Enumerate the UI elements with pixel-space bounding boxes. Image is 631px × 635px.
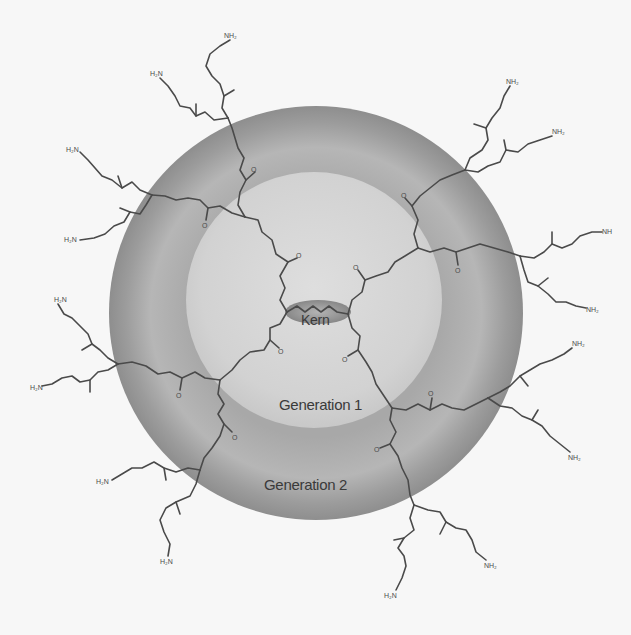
svg-text:O: O — [232, 434, 238, 441]
dendrimer-diagram: NH₂ H₂N H₂N H₂N H₂N H₂N H₂N H₂N NH₂ NH₂ … — [0, 0, 631, 635]
svg-text:H₂N: H₂N — [30, 384, 43, 391]
svg-text:H₂N: H₂N — [54, 296, 67, 303]
svg-text:NH₂: NH₂ — [572, 340, 585, 347]
svg-text:O: O — [176, 392, 182, 399]
generation1-disk — [186, 172, 442, 428]
svg-text:H₂N: H₂N — [160, 558, 173, 565]
svg-text:H₂N: H₂N — [66, 146, 79, 153]
generation2-label: Generation 2 — [264, 476, 347, 493]
svg-text:O: O — [353, 264, 359, 271]
svg-text:H₂N: H₂N — [64, 236, 77, 243]
svg-text:NH₂: NH₂ — [568, 454, 581, 461]
generation1-label: Generation 1 — [279, 396, 362, 413]
svg-text:NH₂: NH₂ — [484, 562, 497, 569]
svg-text:NH₂: NH₂ — [224, 32, 237, 39]
svg-text:H₂N: H₂N — [384, 592, 397, 599]
svg-text:H₂N: H₂N — [96, 478, 109, 485]
svg-text:O: O — [374, 446, 380, 453]
svg-text:NH₂: NH₂ — [506, 78, 519, 85]
svg-text:O: O — [455, 267, 461, 274]
svg-text:O: O — [202, 222, 208, 229]
svg-text:O: O — [342, 356, 348, 363]
svg-text:H₂N: H₂N — [150, 70, 163, 77]
svg-text:NH₂: NH₂ — [552, 128, 565, 135]
core-label: Kern — [301, 312, 329, 328]
svg-text:O: O — [278, 348, 284, 355]
svg-text:NH₂: NH₂ — [586, 306, 599, 313]
svg-text:O: O — [251, 166, 257, 173]
svg-text:O: O — [428, 390, 434, 397]
svg-text:O: O — [296, 252, 302, 259]
svg-text:O: O — [401, 192, 407, 199]
svg-text:NH: NH — [602, 228, 612, 235]
